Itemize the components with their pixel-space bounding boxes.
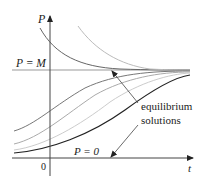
annotation-line-1: equilibrium (141, 100, 193, 112)
origin-label: 0 (41, 161, 46, 172)
curve-above-m-light (78, 26, 190, 70)
annotation-line-2: solutions (141, 114, 181, 126)
logistic-diagram: P t 0 P = M P = 0 equilibrium solutions (0, 0, 212, 182)
p-equals-m-label: P = M (15, 57, 47, 69)
y-axis-label: P (37, 12, 46, 26)
x-axis-label: t (188, 162, 192, 174)
leader-line-lower (111, 125, 138, 157)
p-equals-0-label: P = 0 (73, 145, 99, 157)
curve-above-m-dark (40, 28, 190, 70)
